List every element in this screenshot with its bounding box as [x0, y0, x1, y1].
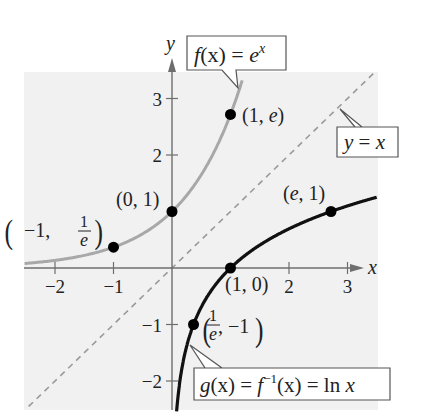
- y-tick-label: −2: [142, 371, 162, 392]
- x-tick-label: −1: [103, 276, 123, 297]
- point-marker: [188, 319, 199, 330]
- svg-text:): ): [255, 310, 263, 348]
- label-e-1: (e, 1): [283, 182, 325, 205]
- x-axis-label: x: [367, 256, 377, 278]
- label-0-1: (0, 1): [116, 188, 159, 211]
- point-marker: [326, 206, 337, 217]
- y-axis-label: y: [164, 32, 175, 55]
- svg-text:): ): [95, 212, 103, 250]
- svg-text:e: e: [209, 324, 217, 344]
- x-tick-label: 2: [284, 276, 294, 297]
- point-marker: [108, 242, 119, 253]
- svg-text:y = x: y = x: [342, 130, 386, 154]
- y-tick-label: −1: [142, 315, 162, 336]
- y-axis-arrow-icon: [168, 58, 176, 72]
- y-tick-label: 2: [153, 145, 163, 166]
- function-inverse-graph: x −2−123 y 32−1−2 ( −1, 1 e ) (0, 1) (1,…: [0, 0, 429, 419]
- svg-text:e: e: [80, 230, 88, 250]
- point-marker: [225, 109, 236, 120]
- x-tick-label: −2: [45, 276, 65, 297]
- point-marker: [225, 263, 236, 274]
- svg-text:1: 1: [209, 307, 217, 324]
- svg-text:g(x) = f−1(x) = ln x: g(x) = f−1(x) = ln x: [200, 371, 355, 397]
- x-tick-label: 3: [343, 276, 353, 297]
- svg-text:1: 1: [80, 213, 88, 230]
- svg-text:f(x) = ex: f(x) = ex: [194, 41, 266, 67]
- svg-text:−1,: −1,: [24, 219, 50, 241]
- y-tick-label: 3: [153, 89, 163, 110]
- svg-text:(: (: [5, 212, 13, 250]
- svg-text:, −1: , −1: [218, 315, 249, 337]
- point-marker: [167, 206, 178, 217]
- label-1-0: (1, 0): [225, 273, 268, 296]
- label-1-e: (1, e): [242, 104, 284, 127]
